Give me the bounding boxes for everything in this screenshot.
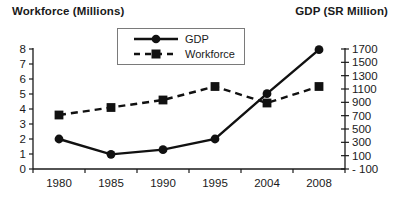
legend-item-workforce: Workforce xyxy=(133,48,244,60)
y-axis-right-tick-label: 1500 xyxy=(352,56,378,68)
gdp-legend-sample-icon xyxy=(133,33,179,45)
gdp-point xyxy=(211,135,220,144)
workforce-point xyxy=(211,82,220,91)
y-axis-left-tick-label: 1 xyxy=(20,148,26,160)
y-axis-left-tick-label: 3 xyxy=(20,118,26,130)
x-axis-tick-label: 1995 xyxy=(202,177,228,189)
y-axis-right-tick-label: 100 xyxy=(352,150,371,162)
workforce-point xyxy=(55,111,64,120)
legend: GDP Workforce xyxy=(117,28,245,65)
gdp-point xyxy=(55,135,64,144)
workforce-point xyxy=(159,96,168,105)
y-axis-right-tick-label: 500 xyxy=(352,123,371,135)
gdp-point xyxy=(107,150,116,159)
x-axis-tick-label: 2004 xyxy=(254,177,280,189)
gdp-line xyxy=(59,50,319,155)
gdp-point xyxy=(315,45,324,54)
gdp-point xyxy=(263,89,272,98)
y-axis-left-tick-label: 7 xyxy=(20,58,26,70)
x-axis-tick-label: 1985 xyxy=(98,177,124,189)
workforce-point xyxy=(315,82,324,91)
gdp-point xyxy=(159,145,168,154)
workforce-line xyxy=(59,87,319,116)
y-axis-left-tick-label: 4 xyxy=(20,103,27,115)
y-axis-right-tick-label: 1100 xyxy=(352,83,377,95)
legend-item-gdp: GDP xyxy=(133,33,244,45)
y-axis-left-tick-label: 0 xyxy=(20,163,26,175)
workforce-legend-sample-icon xyxy=(133,48,179,60)
y-axis-left-tick-label: 2 xyxy=(20,133,26,145)
x-axis-tick-label: 1980 xyxy=(46,177,72,189)
legend-label-gdp: GDP xyxy=(185,33,209,45)
x-axis-tick-label: 2008 xyxy=(306,177,332,189)
x-axis-tick-label: 1990 xyxy=(150,177,176,189)
y-axis-right-tick-label: 1700 xyxy=(352,43,378,55)
y-axis-left-tick-label: 5 xyxy=(20,88,26,100)
y-axis-right-tick-label: 900 xyxy=(352,96,371,108)
y-axis-right-tick-label: 300 xyxy=(352,136,371,148)
chart-container: Workforce (Millions) GDP (SR Million) 19… xyxy=(0,0,399,202)
workforce-point xyxy=(263,99,272,108)
y-axis-right-tick-label: 700 xyxy=(352,110,371,122)
y-axis-left-tick-label: 8 xyxy=(20,43,26,55)
y-axis-right-tick-label: 1300 xyxy=(352,70,378,82)
workforce-point xyxy=(107,103,116,112)
y-axis-right-tick-label: - 100 xyxy=(352,163,378,175)
y-axis-left-tick-label: 6 xyxy=(20,73,26,85)
legend-label-workforce: Workforce xyxy=(185,48,235,60)
